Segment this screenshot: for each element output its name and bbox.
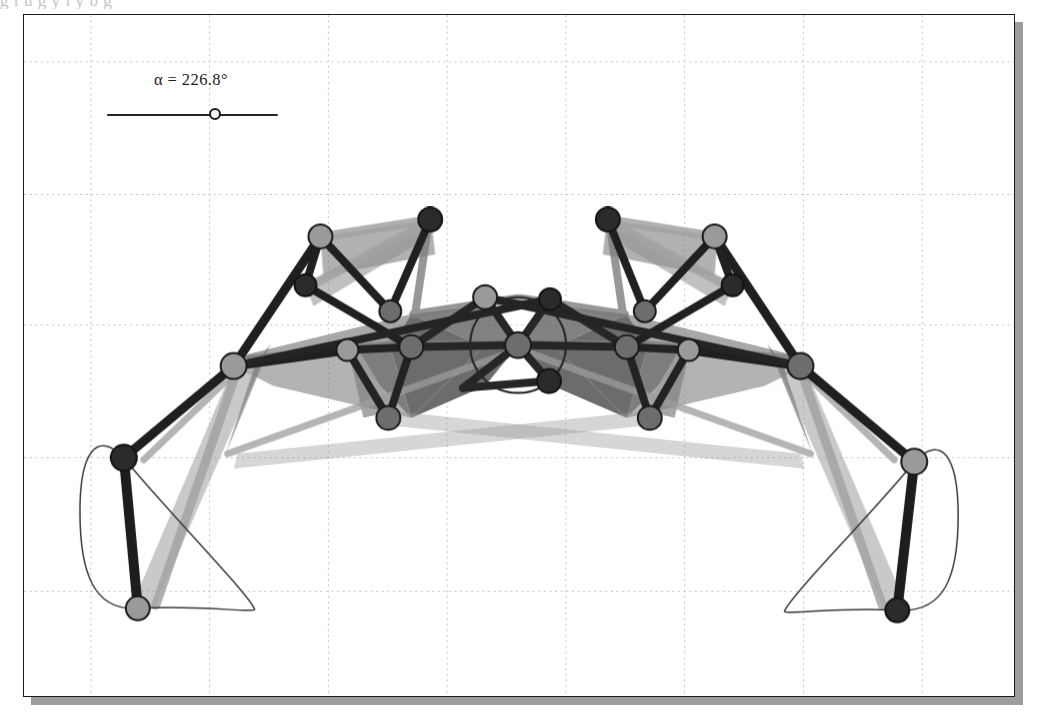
joint-crank-br — [537, 369, 561, 393]
alpha-slider[interactable]: α = 226.8° — [86, 70, 296, 132]
page-root: g l u g y l y b g — [0, 0, 1044, 718]
bar-left-shin — [124, 458, 138, 609]
joint-right-foot — [885, 598, 909, 622]
joint-right-low — [638, 406, 662, 430]
joint-left-mid — [379, 300, 401, 322]
joint-right-top — [703, 224, 727, 248]
joint-crank-tl — [473, 285, 497, 309]
joint-left-hip — [221, 353, 247, 379]
bar-hub-right-body — [518, 345, 627, 347]
joint-left-peak — [418, 207, 442, 231]
joint-right-peak — [596, 207, 620, 231]
geometry-applet-frame[interactable]: α = 226.8° — [23, 14, 1015, 697]
bar-right-shin — [897, 462, 914, 611]
joint-left-upper — [294, 274, 316, 296]
page-bleed-text: g l u g y l y b g — [0, 0, 1044, 9]
joint-right-mid — [634, 300, 656, 322]
ghost-linkage-bars — [144, 218, 894, 605]
joint-left-knee — [336, 339, 358, 361]
joint-right-hip — [787, 353, 813, 379]
swept-area-fills — [134, 219, 904, 609]
joint-hub — [505, 332, 531, 358]
joint-left-top — [308, 224, 332, 248]
linkage-bars — [124, 219, 914, 610]
alpha-slider-knob[interactable] — [209, 108, 221, 120]
joint-right-ankle — [901, 449, 927, 475]
alpha-slider-label: α = 226.8° — [86, 70, 296, 90]
alpha-slider-track-area[interactable] — [86, 104, 296, 126]
bar-hub-left-body — [411, 345, 518, 347]
joint-left-ankle — [111, 445, 137, 471]
joint-right-upper — [722, 274, 744, 296]
joint-left-inner — [399, 335, 423, 359]
joint-right-inner — [615, 335, 639, 359]
joint-right-knee — [678, 339, 700, 361]
joint-left-foot — [126, 596, 150, 620]
joint-left-low — [376, 406, 400, 430]
joint-crank-tr — [539, 288, 561, 310]
alpha-slider-track[interactable] — [107, 114, 278, 116]
